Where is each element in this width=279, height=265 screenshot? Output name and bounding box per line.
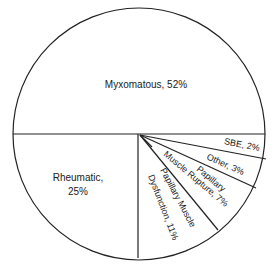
pie-slices — [13, 8, 266, 260]
label-rheumatic-line1: Rheumatic, — [53, 172, 104, 183]
label-rheumatic-line2: 25% — [68, 186, 88, 197]
label-myxomatous: Myxomatous, 52% — [105, 79, 187, 90]
pie-chart: Myxomatous, 52% Rheumatic, 25% SBE, 2% O… — [0, 0, 279, 265]
